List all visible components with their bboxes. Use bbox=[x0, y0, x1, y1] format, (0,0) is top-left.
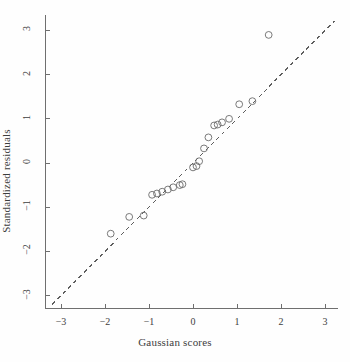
x-tick-label: −2 bbox=[95, 316, 115, 327]
y-tick-label: −2 bbox=[20, 243, 31, 257]
data-point bbox=[107, 230, 114, 237]
x-tick-label: 3 bbox=[315, 316, 335, 327]
x-tick-label: −3 bbox=[51, 316, 71, 327]
x-tick-label: 2 bbox=[271, 316, 291, 327]
y-tick-label: 1 bbox=[20, 110, 31, 124]
x-tick-label: 1 bbox=[227, 316, 247, 327]
y-tick-label: −3 bbox=[20, 287, 31, 301]
y-tick-label: −1 bbox=[20, 199, 31, 213]
x-axis-title: Gaussian scores bbox=[0, 336, 350, 348]
data-point bbox=[140, 212, 147, 219]
axes-group bbox=[46, 15, 339, 309]
data-point bbox=[149, 191, 156, 198]
y-tick-label: 0 bbox=[20, 155, 31, 169]
reference-line-segment bbox=[52, 21, 334, 305]
data-point bbox=[205, 134, 212, 141]
qq-plot-figure: −3−2−10123 −3−2−10123 Gaussian scores St… bbox=[0, 0, 350, 362]
data-point bbox=[265, 32, 272, 39]
data-point bbox=[226, 115, 233, 122]
y-axis-title: Standardized residuals bbox=[0, 0, 14, 362]
y-tick-label: 2 bbox=[20, 66, 31, 80]
y-tick-label: 3 bbox=[20, 22, 31, 36]
data-point bbox=[126, 213, 133, 220]
data-points bbox=[107, 32, 272, 238]
data-point bbox=[236, 101, 243, 108]
x-tick-label: 0 bbox=[183, 316, 203, 327]
x-tick-label: −1 bbox=[139, 316, 159, 327]
reference-line bbox=[52, 21, 334, 305]
data-point bbox=[201, 145, 208, 152]
plot-canvas bbox=[0, 0, 350, 362]
